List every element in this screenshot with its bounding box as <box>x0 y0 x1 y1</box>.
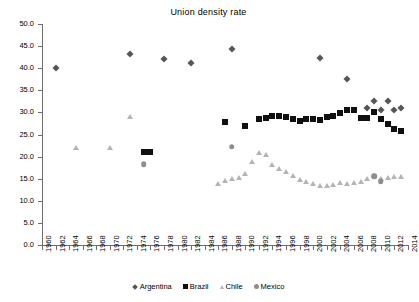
x-axis-tick <box>205 246 206 250</box>
x-axis-tick <box>110 246 111 250</box>
x-axis-tick <box>259 246 260 250</box>
data-point-argentina <box>371 97 378 104</box>
data-point-argentina <box>188 59 195 66</box>
data-point-argentina <box>127 51 134 58</box>
data-point-chile <box>391 174 397 179</box>
data-point-brazil <box>351 107 357 113</box>
data-point-chile <box>229 176 235 181</box>
legend-item-mexico[interactable]: Mexico <box>254 283 285 291</box>
data-point-chile <box>73 145 79 150</box>
legend-item-label: Mexico <box>261 283 285 291</box>
data-point-chile <box>324 183 330 188</box>
data-point-mexico <box>371 174 377 180</box>
data-point-argentina <box>384 98 391 105</box>
square-marker-icon <box>183 284 188 289</box>
y-axis-tick-label: 0.0 <box>0 241 34 249</box>
data-point-chile <box>385 175 391 180</box>
data-point-brazil <box>297 118 303 124</box>
circle-marker-icon <box>254 284 259 289</box>
x-axis-tick <box>381 246 382 250</box>
plot-area <box>42 24 408 245</box>
data-point-chile <box>222 178 228 183</box>
data-point-brazil <box>330 113 336 119</box>
data-point-brazil <box>317 117 323 123</box>
data-point-brazil <box>398 128 404 134</box>
legend-item-label: Chile <box>226 283 243 291</box>
data-point-brazil <box>269 113 275 119</box>
x-axis-tick <box>408 246 409 250</box>
data-point-argentina <box>364 104 371 111</box>
x-axis-tick <box>313 246 314 250</box>
data-point-chile <box>303 179 309 184</box>
data-point-argentina <box>377 106 384 113</box>
y-axis-tick-label: 40.0 <box>0 64 34 72</box>
data-point-brazil <box>378 116 384 122</box>
data-point-chile <box>276 166 282 171</box>
chart-title: Union density rate <box>0 7 417 17</box>
x-axis-tick <box>300 246 301 250</box>
data-point-brazil <box>147 149 153 155</box>
legend-item-brazil[interactable]: Brazil <box>183 283 209 291</box>
data-point-brazil <box>358 115 364 121</box>
data-point-argentina <box>228 46 235 53</box>
data-point-brazil <box>344 107 350 113</box>
data-point-chile <box>256 150 262 155</box>
y-axis-tick-label: 25.0 <box>0 131 34 139</box>
data-point-chile <box>310 181 316 186</box>
x-axis-tick <box>286 246 287 250</box>
data-point-chile <box>317 183 323 188</box>
x-axis-tick <box>327 246 328 250</box>
x-axis-tick <box>42 246 43 250</box>
x-axis-tick <box>354 246 355 250</box>
x-axis-tick <box>137 246 138 250</box>
data-point-brazil <box>283 114 289 120</box>
data-point-argentina <box>316 54 323 61</box>
data-point-brazil <box>310 116 316 122</box>
data-point-chile <box>283 169 289 174</box>
data-point-mexico <box>229 144 235 150</box>
triangle-marker-icon <box>220 285 224 289</box>
data-point-brazil <box>222 119 228 125</box>
data-point-brazil <box>364 115 370 121</box>
data-point-brazil <box>141 149 147 155</box>
x-axis-tick <box>178 246 179 250</box>
data-point-chile <box>249 159 255 164</box>
legend-item-chile[interactable]: Chile <box>220 283 243 291</box>
data-point-argentina <box>52 65 59 72</box>
data-point-chile <box>242 171 248 176</box>
y-axis-tick-label: 5.0 <box>0 219 34 227</box>
data-point-brazil <box>242 123 248 129</box>
x-axis-tick-label: 2014 <box>411 235 419 252</box>
data-point-chile <box>263 152 269 157</box>
y-axis-tick-label: 10.0 <box>0 197 34 205</box>
data-point-chile <box>337 180 343 185</box>
data-point-chile <box>344 181 350 186</box>
data-point-chile <box>236 175 242 180</box>
data-point-argentina <box>343 76 350 83</box>
data-point-chile <box>127 114 133 119</box>
y-axis-tick-label: 15.0 <box>0 175 34 183</box>
data-point-brazil <box>385 121 391 127</box>
data-point-chile <box>290 173 296 178</box>
data-point-mexico <box>141 161 147 167</box>
data-point-chile <box>398 174 404 179</box>
data-point-argentina <box>398 104 405 111</box>
data-point-brazil <box>290 116 296 122</box>
data-point-chile <box>269 162 275 167</box>
data-point-brazil <box>256 116 262 122</box>
y-axis-tick-label: 20.0 <box>0 153 34 161</box>
data-point-brazil <box>276 113 282 119</box>
data-point-mexico <box>378 178 384 184</box>
y-axis-tick-label: 45.0 <box>0 42 34 50</box>
y-axis-tick-label: 50.0 <box>0 20 34 28</box>
data-point-chile <box>351 180 357 185</box>
data-point-argentina <box>160 55 167 62</box>
chart-legend: ArgentinaBrazilChileMexico <box>0 283 417 291</box>
data-point-chile <box>107 145 113 150</box>
x-axis-tick <box>164 246 165 250</box>
data-point-chile <box>330 182 336 187</box>
legend-item-argentina[interactable]: Argentina <box>133 283 172 291</box>
y-axis-tick-label: 35.0 <box>0 86 34 94</box>
x-axis-tick <box>191 246 192 250</box>
